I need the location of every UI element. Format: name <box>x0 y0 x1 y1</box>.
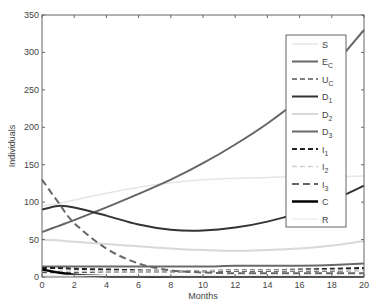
y-tick-label: 250 <box>24 85 39 95</box>
x-tick-label: 4 <box>104 280 109 290</box>
y-axis-label: Individuals <box>7 124 17 167</box>
y-tick-label: 350 <box>24 10 39 20</box>
y-tick-label: 200 <box>24 122 39 132</box>
x-tick-label: 0 <box>39 280 44 290</box>
series-line-d-2 <box>42 240 364 251</box>
x-tick-label: 18 <box>327 280 337 290</box>
y-tick-label: 50 <box>29 235 39 245</box>
legend-label: C <box>322 197 329 207</box>
x-tick-label: 16 <box>295 280 305 290</box>
x-axis-label: Months <box>188 291 218 301</box>
y-tick-label: 300 <box>24 47 39 57</box>
series-line-d-3 <box>42 264 364 267</box>
x-tick-label: 10 <box>198 280 208 290</box>
x-tick-label: 6 <box>136 280 141 290</box>
series-line-i-2 <box>42 270 364 271</box>
line-chart: 02468101214161820050100150200250300350 M… <box>0 0 376 306</box>
legend: SECUCD1D2D3I1I2I3CR <box>286 35 346 227</box>
x-tick-label: 20 <box>359 280 369 290</box>
y-tick-label: 100 <box>24 197 39 207</box>
y-tick-label: 0 <box>34 272 39 282</box>
x-tick-label: 2 <box>72 280 77 290</box>
x-tick-label: 12 <box>230 280 240 290</box>
y-tick-label: 150 <box>24 160 39 170</box>
legend-label: S <box>322 40 328 50</box>
legend-label: R <box>322 215 329 225</box>
x-tick-label: 8 <box>168 280 173 290</box>
x-tick-label: 14 <box>262 280 272 290</box>
